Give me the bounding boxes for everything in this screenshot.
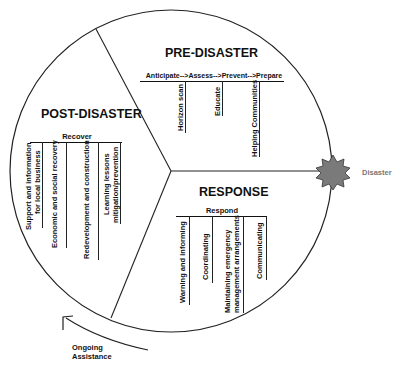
pre-item-educate: Educate — [214, 87, 222, 116]
pre-line-3 — [259, 81, 260, 157]
post-line-4 — [120, 142, 121, 224]
post-item-redevelopment: Redevelopment and construction — [83, 140, 91, 259]
post-line-2 — [66, 142, 67, 248]
ongoing-label-line1: Ongoing — [72, 343, 112, 352]
pre-line-1 — [185, 81, 186, 133]
post-line-1 — [42, 142, 43, 228]
post-item-economic: Economic and social recovery — [51, 140, 59, 248]
post-item-support-2: for local business — [34, 150, 42, 214]
post-disaster-title: POST-DISASTER — [41, 107, 142, 121]
response-phase: Respond — [177, 206, 267, 215]
pre-item-horizon-scan: Horizon scan — [177, 84, 185, 131]
post-disaster-phase: Recover — [32, 132, 122, 141]
pre-item-helping-communities: Helping Communities — [251, 80, 259, 157]
disaster-star-icon — [316, 155, 350, 190]
post-item-learning-1: Learning lessons — [103, 153, 111, 215]
response-line-4 — [266, 216, 267, 280]
divider-top — [96, 29, 171, 171]
response-item-coordinating: Coordinating — [202, 233, 210, 280]
post-bar — [30, 142, 122, 143]
pre-line-2 — [222, 81, 223, 116]
response-title: RESPONSE — [199, 185, 268, 199]
pre-disaster-title: PRE-DISASTER — [165, 46, 258, 60]
response-line-3 — [243, 216, 244, 313]
pre-bar — [140, 81, 284, 82]
ongoing-label-line2: Assistance — [72, 352, 112, 361]
response-item-maintaining-2: management arrangements — [233, 215, 241, 313]
post-item-support-1: Support and information — [25, 143, 33, 231]
response-line-2 — [212, 216, 213, 283]
post-item-learning-2: mitigation/prevention — [112, 147, 120, 223]
response-line-1 — [189, 216, 190, 305]
post-line-3 — [98, 142, 99, 260]
arrow-head-icon — [63, 316, 73, 330]
disaster-label: Disaster — [362, 168, 392, 177]
pre-disaster-phase: Anticipate-->Assess-->Prevent-->Prepare — [143, 72, 285, 79]
response-item-maintaining-1: Maintaining emergency — [224, 230, 232, 313]
ongoing-assistance-label: Ongoing Assistance — [72, 343, 112, 361]
response-item-warning: Warning and informing — [179, 221, 187, 303]
response-item-communicating: Communicating — [256, 222, 264, 279]
